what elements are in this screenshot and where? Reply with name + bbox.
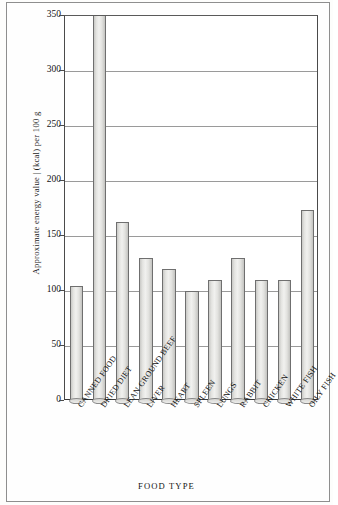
bar (70, 286, 83, 402)
plot-area (64, 15, 318, 400)
bar (93, 16, 106, 401)
y-tick-label: 350 (25, 9, 61, 19)
y-axis-title: Approximate energy value | (kcal) per 10… (31, 78, 41, 308)
bar-series (65, 16, 319, 401)
y-tick-label: 50 (25, 339, 61, 349)
bar (231, 258, 244, 401)
y-tick-label: 300 (25, 64, 61, 74)
y-tick-label: 100 (25, 284, 61, 294)
y-tick-label: 0 (25, 394, 61, 404)
y-tick-label: 150 (25, 229, 61, 239)
y-tick-mark (59, 400, 64, 401)
y-tick-label: 250 (25, 119, 61, 129)
x-axis-title: FOOD TYPE (0, 481, 333, 491)
y-tick-label: 200 (25, 174, 61, 184)
